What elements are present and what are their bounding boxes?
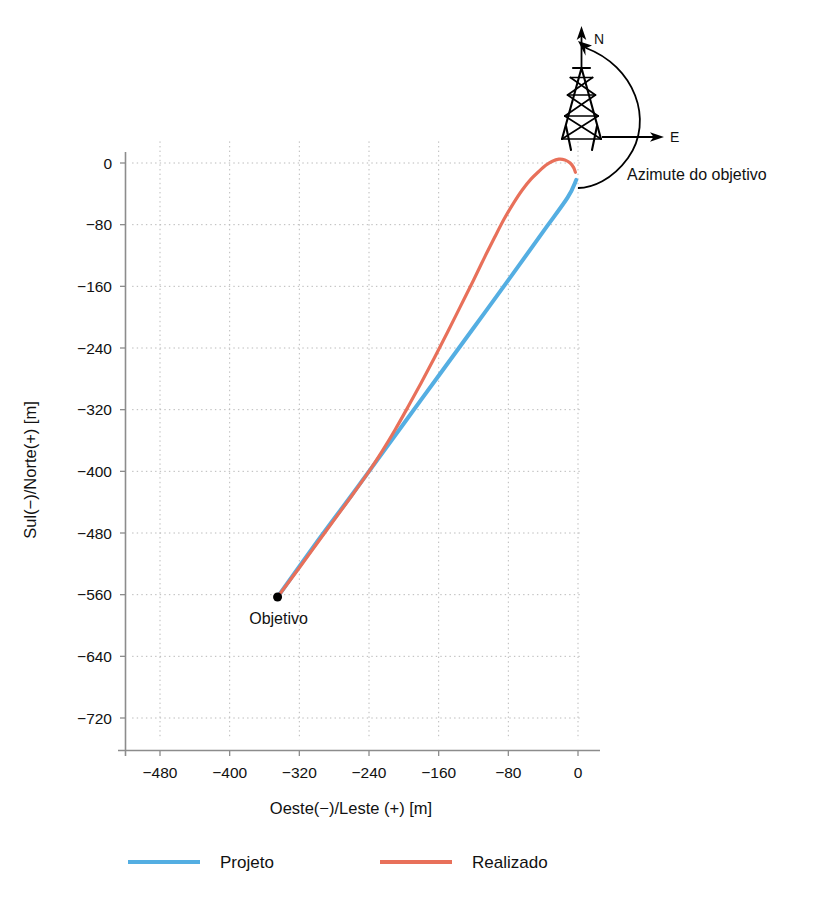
grid-lines — [132, 141, 581, 739]
y-tick-marks — [120, 163, 126, 718]
series-line-realizado — [278, 159, 576, 597]
legend-label-projeto: Projeto — [220, 853, 274, 872]
y-tick-label: −80 — [86, 216, 113, 233]
azimuth-label: Azimute do objetivo — [627, 166, 767, 183]
x-tick-labels: −480−400−320−240−160−800 — [143, 764, 583, 781]
x-tick-label: −160 — [421, 764, 456, 781]
x-axis-title: Oeste(−)/Leste (+) [m] — [270, 799, 432, 817]
y-axis-title: Sul(−)/Norte(+) [m] — [21, 401, 39, 539]
y-tick-label: −560 — [77, 586, 112, 603]
well-trajectory-plan-view-figure: −480−400−320−240−160−800 0−80−160−240−32… — [0, 0, 833, 900]
east-label: E — [670, 129, 679, 145]
legend: ProjetoRealizado — [128, 853, 548, 872]
plot-canvas: −480−400−320−240−160−800 0−80−160−240−32… — [0, 0, 833, 900]
y-tick-label: −720 — [77, 710, 112, 727]
y-tick-label: −640 — [77, 648, 112, 665]
legend-label-realizado: Realizado — [472, 853, 548, 872]
y-tick-label: −480 — [77, 525, 112, 542]
y-tick-label: −320 — [77, 401, 112, 418]
y-tick-label: −160 — [77, 278, 112, 295]
x-tick-label: −240 — [352, 764, 387, 781]
x-tick-label: 0 — [574, 764, 583, 781]
objetivo-marker — [273, 592, 282, 601]
y-tick-label: 0 — [103, 155, 112, 172]
x-tick-label: −480 — [143, 764, 178, 781]
y-tick-label: −240 — [77, 340, 112, 357]
x-tick-marks — [160, 751, 578, 757]
x-tick-label: −80 — [495, 764, 522, 781]
east-arrow-icon — [602, 132, 664, 142]
north-label: N — [594, 31, 604, 47]
y-tick-labels: 0−80−160−240−320−400−480−560−640−720 — [77, 155, 112, 727]
x-tick-label: −320 — [282, 764, 317, 781]
objetivo-label: Objetivo — [249, 610, 308, 627]
drilling-derrick-icon — [562, 68, 601, 150]
y-tick-label: −400 — [77, 463, 112, 480]
x-tick-label: −400 — [212, 764, 247, 781]
